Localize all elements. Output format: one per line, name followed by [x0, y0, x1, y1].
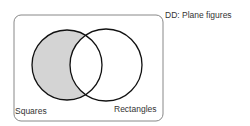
squares-label: Squares — [15, 106, 47, 116]
universe-label: DD: Plane figures — [165, 10, 232, 20]
rectangles-label: Rectangles — [114, 104, 157, 114]
